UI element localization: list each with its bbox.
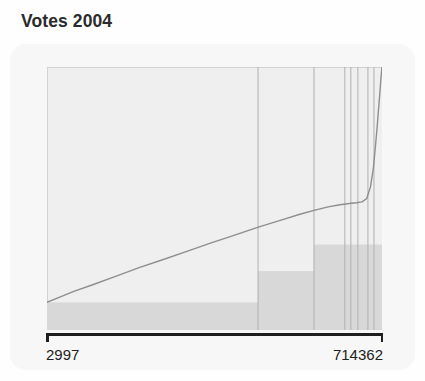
x-axis-max-label: 714362: [333, 346, 383, 363]
x-axis: [46, 333, 383, 343]
shaded-band-step: [314, 245, 382, 330]
plot-canvas: [47, 67, 382, 330]
shaded-band-step: [47, 302, 258, 330]
x-axis-line: [46, 333, 383, 336]
shaded-band-group: [47, 245, 382, 330]
x-axis-left-cap: [46, 333, 49, 342]
page-title: Votes 2004: [21, 11, 112, 32]
x-axis-right-cap: [381, 333, 384, 342]
chart-page: Votes 2004 2997 714362: [0, 0, 425, 381]
x-axis-min-label: 2997: [46, 346, 79, 363]
plot-area: [47, 67, 382, 330]
shaded-band-step: [258, 271, 314, 330]
